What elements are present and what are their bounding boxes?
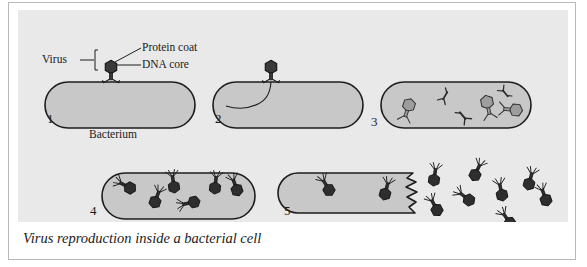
panel-3-assembly: 3 [371, 82, 531, 129]
label-dna-core: DNA core [142, 58, 189, 70]
virus-group-5-released [423, 157, 553, 222]
panel-number-3: 3 [371, 114, 378, 129]
figure-illustration-svg: 1 Virus Protein coat DNA core B [18, 10, 568, 222]
panel-number-1: 1 [47, 111, 54, 126]
label-bacterium: Bacterium [89, 128, 137, 140]
protein-coat-leader-line [115, 48, 141, 62]
panel-number-4: 4 [90, 203, 97, 218]
bacterium-cell-2 [213, 82, 363, 128]
panel-4-maturation: 4 [90, 169, 255, 219]
virus-attached [102, 60, 119, 82]
panel-number-5: 5 [284, 203, 291, 218]
illustration-area: 1 Virus Protein coat DNA core B [18, 10, 568, 222]
bacterium-cell-5-burst [278, 173, 417, 213]
panel-2-injection: 2 [213, 60, 363, 128]
figure-caption: Virus reproduction inside a bacterial ce… [23, 230, 261, 247]
caption-strip: Virus reproduction inside a bacterial ce… [18, 228, 568, 254]
bacterium-cell-1 [45, 82, 195, 128]
panel-number-2: 2 [215, 111, 222, 126]
panel-5-lysis: 5 [278, 157, 554, 222]
label-protein-coat: Protein coat [142, 41, 198, 53]
virus-injecting [262, 60, 279, 82]
panel-1-attachment: 1 Virus Protein coat DNA core B [42, 41, 198, 140]
figure-card: Figure 23-5 [8, 2, 576, 260]
label-virus: Virus [42, 53, 67, 65]
virus-bracket [95, 50, 98, 70]
